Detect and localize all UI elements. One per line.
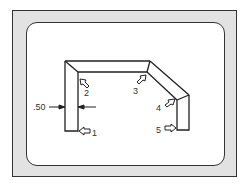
lower-bend-bevel (177, 95, 189, 100)
callout-label-5: 5 (156, 126, 161, 135)
dimension-label: .50 (33, 103, 46, 112)
callout-arrow-3 (137, 75, 146, 84)
right-corner-bevel (147, 61, 150, 72)
left-corner-bevel (65, 61, 78, 72)
callout-label-3: 3 (133, 87, 138, 96)
callout-label-4: 4 (156, 104, 161, 113)
top-beam (65, 61, 150, 72)
right-leg (177, 95, 189, 130)
dimension-arrow-right (78, 105, 84, 109)
callout-arrow-2 (80, 79, 89, 88)
callout-label-2: 2 (84, 89, 89, 98)
dimension-arrow-left (59, 105, 65, 109)
bent-bar-drawing (0, 0, 248, 188)
callout-arrow-4 (165, 99, 175, 107)
diagonal-segment (147, 61, 189, 100)
callout-arrow-1 (79, 127, 90, 135)
left-leg (65, 61, 78, 131)
callout-arrow-5 (165, 124, 176, 132)
callout-label-1: 1 (92, 129, 97, 138)
